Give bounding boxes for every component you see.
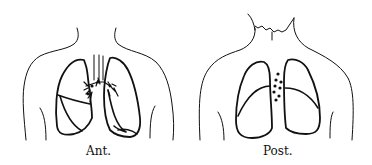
anterior-torso-right: [115, 28, 174, 140]
posterior-torso-left: [199, 28, 255, 140]
posterior-lung-right: [284, 59, 320, 134]
posterior-arm-crease-right: [330, 112, 333, 138]
posterior-dots: [272, 72, 282, 101]
hilar-node: [90, 84, 93, 87]
anterior-lung-left-lingula: [118, 129, 137, 134]
hilar-node: [96, 80, 99, 83]
anterior-lung-left-fissure: [108, 90, 126, 132]
lung-diagram-svg: [0, 0, 372, 165]
posterior-torso-right: [294, 18, 354, 140]
posterior-lung-left: [236, 62, 272, 138]
hilar-node: [109, 85, 112, 88]
anterior-torso-left: [23, 28, 78, 140]
posterior-arm-crease-left: [218, 112, 224, 140]
posterior-lung-right-fissure: [285, 88, 318, 108]
posterior-lung-left-fissure: [238, 86, 270, 116]
anterior-panel: [23, 28, 173, 140]
posterior-panel: [199, 14, 353, 140]
anterior-label: Ant.: [86, 144, 111, 158]
posterior-label: Post.: [263, 144, 293, 158]
anterior-arm-crease-left: [40, 108, 46, 140]
hilar-node: [87, 93, 90, 96]
anterior-arm-crease-right: [150, 106, 155, 138]
